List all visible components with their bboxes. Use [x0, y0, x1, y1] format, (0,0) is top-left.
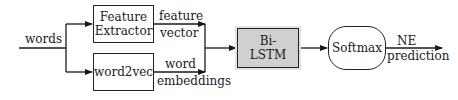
softmax-node: Softmax: [328, 26, 386, 70]
feature-extractor-node: Feature Extractor: [93, 5, 154, 43]
bilstm-line1: Bi-: [260, 34, 277, 48]
bilstm-line2: LSTM: [250, 48, 286, 62]
edge-label-word: word: [165, 58, 196, 71]
edge-label-feature: feature: [159, 10, 203, 23]
softmax-label: Softmax: [332, 41, 382, 55]
edge-label-prediction: prediction: [387, 50, 449, 63]
feature-extractor-line1: Feature: [100, 10, 147, 24]
bilstm-node: Bi- LSTM: [237, 28, 299, 68]
edge-label-embeddings: embeddings: [157, 75, 231, 88]
edge-label-vector: vector: [160, 27, 198, 40]
word2vec-label: word2vec: [94, 65, 153, 79]
input-label-words: words: [25, 33, 62, 46]
feature-extractor-line2: Extractor: [95, 24, 153, 38]
word2vec-node: word2vec: [93, 53, 154, 91]
edge-label-ne: NE: [397, 35, 416, 48]
